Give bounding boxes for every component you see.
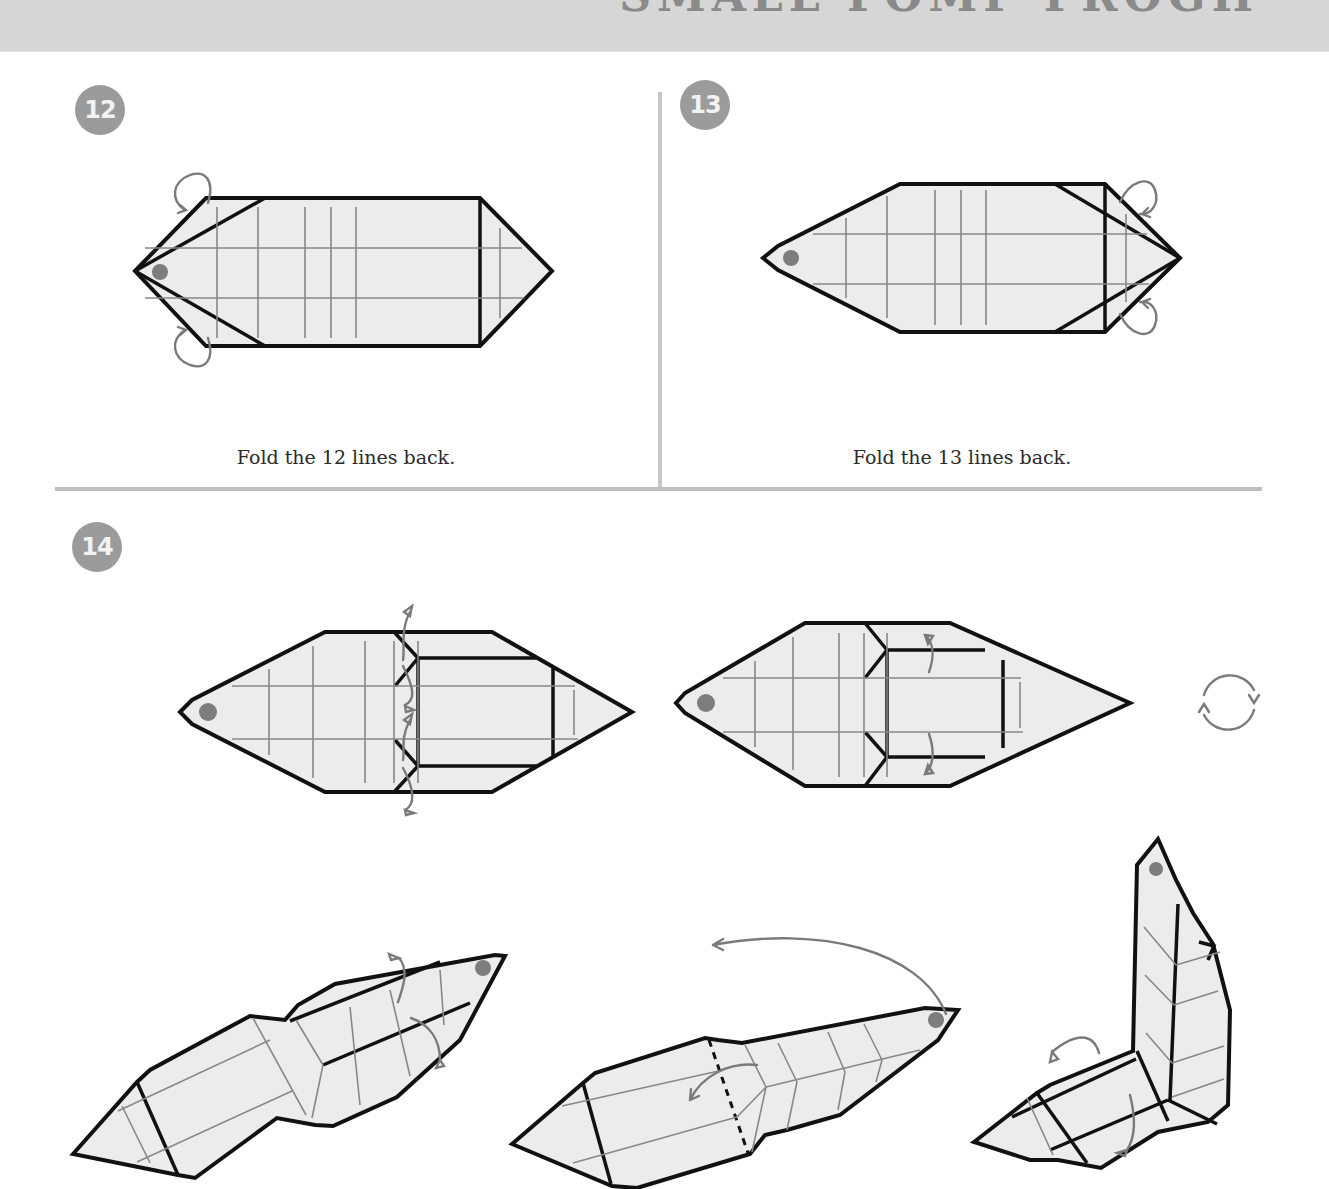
dot-marker-icon <box>783 250 799 266</box>
dot-marker-icon <box>928 1012 944 1028</box>
step-14-diagram-4 <box>512 1008 958 1188</box>
step-badge-14: 14 <box>72 522 122 572</box>
dot-marker-icon <box>1149 862 1163 876</box>
horizontal-divider <box>55 487 1262 491</box>
rotate-arrows-icon <box>1199 675 1259 729</box>
step-12-paper <box>135 198 552 346</box>
step-14-diagram-5 <box>974 839 1230 1168</box>
step-12-diagram <box>0 0 1329 1189</box>
step-13-caption: Fold the 13 lines back. <box>853 446 1071 468</box>
step-14-diagram-2 <box>676 623 1130 786</box>
step-badge-13: 13 <box>680 80 730 130</box>
vertical-divider <box>658 92 662 489</box>
step-13-paper <box>763 184 1180 332</box>
dot-marker-icon <box>199 703 217 721</box>
dot-marker-icon <box>697 694 715 712</box>
dot-marker-icon <box>152 264 168 280</box>
dot-marker-icon <box>475 960 491 976</box>
step-12-caption: Fold the 12 lines back. <box>237 446 455 468</box>
